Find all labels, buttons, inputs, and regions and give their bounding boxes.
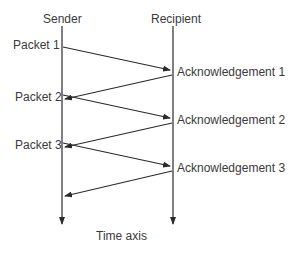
sender-header: Sender bbox=[43, 12, 82, 26]
time-axis-label: Time axis bbox=[96, 229, 147, 243]
ack-1-arrow bbox=[65, 75, 172, 99]
ack-3-arrow bbox=[65, 171, 172, 196]
ack-3-label: Acknowledgement 3 bbox=[177, 161, 285, 175]
ack-2-label: Acknowledgement 2 bbox=[177, 113, 285, 127]
packet-3-label: Packet 3 bbox=[15, 138, 62, 152]
packet-2-arrow bbox=[63, 95, 170, 118]
packet-1-label: Packet 1 bbox=[13, 38, 60, 52]
packet-1-arrow bbox=[63, 47, 170, 70]
ack-1-label: Acknowledgement 1 bbox=[177, 65, 285, 79]
recipient-header: Recipient bbox=[151, 12, 201, 26]
packet-3-arrow bbox=[63, 143, 170, 166]
packet-2-label: Packet 2 bbox=[15, 90, 62, 104]
ack-2-arrow bbox=[65, 123, 172, 147]
sequence-diagram: Sender Recipient Packet 1 Packet 2 Packe… bbox=[0, 0, 292, 254]
